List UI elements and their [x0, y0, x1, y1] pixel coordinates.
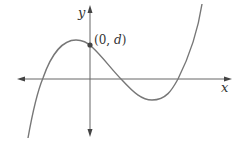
y-intercept-point [87, 42, 92, 47]
x-axis-label: x [221, 80, 229, 95]
cubic-curve [28, 4, 202, 138]
y-axis-up-arrow-icon [88, 5, 93, 13]
graph-diagram: y x (0, d) [0, 0, 245, 145]
y-axis-label: y [77, 5, 86, 20]
graph-canvas: y x (0, d) [0, 0, 245, 145]
x-axis-left-arrow-icon [17, 77, 25, 82]
point-label-close: ) [122, 33, 127, 47]
y-axis-down-arrow-icon [88, 129, 93, 137]
point-label: (0, d) [94, 33, 126, 47]
point-label-open: (0, [94, 33, 114, 47]
